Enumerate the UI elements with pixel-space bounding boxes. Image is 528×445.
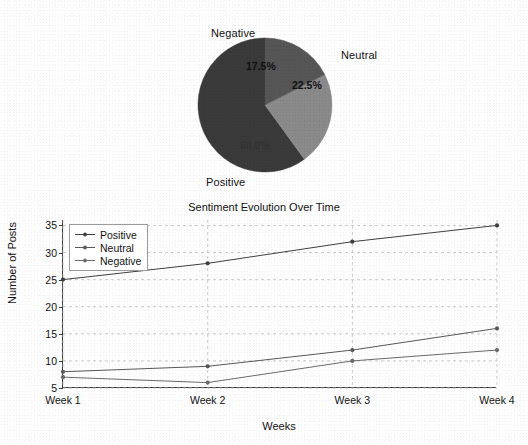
- legend-item-neutral[interactable]: Neutral: [74, 241, 141, 254]
- y-tick-label: 5: [51, 382, 57, 394]
- data-point-positive[interactable]: [350, 240, 354, 244]
- y-tick-label: 15: [45, 328, 57, 340]
- legend-label-positive: Positive: [100, 229, 137, 241]
- y-tick-label: 10: [45, 355, 57, 367]
- legend-marker-negative: [74, 255, 96, 266]
- pie-label-neutral: Neutral: [341, 49, 377, 61]
- x-tick-label: Week 3: [335, 394, 370, 406]
- data-point-positive[interactable]: [206, 261, 210, 265]
- data-point-negative[interactable]: [350, 359, 354, 363]
- pie-percent-neutral: 22.5%: [292, 79, 322, 91]
- chart-legend[interactable]: Positive Neutral Negative: [69, 224, 148, 271]
- pie-label-positive: Positive: [206, 176, 245, 188]
- legend-label-negative: Negative: [100, 255, 141, 267]
- pie-chart-panel: Negative Neutral Positive 17.5% 22.5% 60…: [0, 0, 528, 200]
- chart-title: Sentiment Evolution Over Time: [0, 201, 528, 213]
- x-tick-label: Week 2: [190, 394, 225, 406]
- plot-area: 5101520253035 Week 1Week 2Week 3Week 4 P…: [62, 220, 496, 388]
- figure-canvas: Negative Neutral Positive 17.5% 22.5% 60…: [0, 0, 528, 445]
- legend-item-positive[interactable]: Positive: [74, 228, 141, 241]
- x-tick-label: Week 4: [479, 394, 514, 406]
- legend-item-negative[interactable]: Negative: [74, 254, 141, 267]
- data-point-negative[interactable]: [61, 375, 65, 379]
- y-tick-label: 20: [45, 301, 57, 313]
- y-tick-mark: [59, 225, 63, 226]
- series-line-neutral[interactable]: [63, 328, 497, 371]
- data-point-negative[interactable]: [495, 348, 499, 352]
- series-line-negative[interactable]: [63, 350, 497, 383]
- y-tick-label: 35: [45, 219, 57, 231]
- legend-marker-positive: [74, 229, 96, 240]
- legend-marker-neutral: [74, 242, 96, 253]
- x-axis-label: Weeks: [62, 420, 496, 432]
- data-point-positive[interactable]: [495, 223, 499, 227]
- y-tick-mark: [59, 253, 63, 254]
- pie-label-negative: Negative: [211, 27, 255, 39]
- y-tick-mark: [59, 280, 63, 281]
- x-tick-label: Week 1: [45, 394, 80, 406]
- y-tick-mark: [59, 334, 63, 335]
- pie-percent-positive: 60.0%: [240, 139, 270, 151]
- pie-percent-negative: 17.5%: [246, 60, 276, 72]
- data-point-neutral[interactable]: [206, 364, 210, 368]
- y-axis-label: Number of Posts: [6, 222, 18, 304]
- line-chart-panel: Sentiment Evolution Over Time Number of …: [0, 198, 528, 445]
- y-tick-mark: [59, 307, 63, 308]
- y-tick-mark: [59, 361, 63, 362]
- data-point-neutral[interactable]: [495, 326, 499, 330]
- legend-label-neutral: Neutral: [100, 242, 134, 254]
- pie-slices: [197, 37, 333, 173]
- data-point-neutral[interactable]: [350, 348, 354, 352]
- data-point-negative[interactable]: [206, 380, 210, 384]
- y-tick-label: 25: [45, 274, 57, 286]
- y-tick-label: 30: [45, 247, 57, 259]
- pie-chart: [197, 37, 333, 173]
- y-tick-mark: [59, 388, 63, 389]
- data-point-neutral[interactable]: [61, 370, 65, 374]
